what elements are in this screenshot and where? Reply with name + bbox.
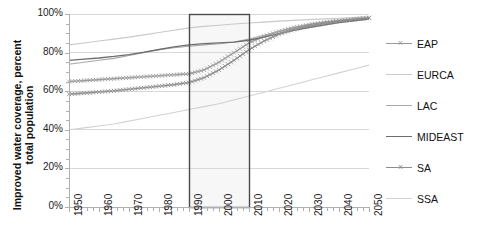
legend-item-label: SSA [417, 193, 438, 205]
legend-item-label: MIDEAST [417, 131, 464, 143]
x-axis-tick-label: 2010 [253, 194, 264, 216]
legend-item-eurca[interactable]: EURCA [386, 59, 478, 90]
legend-x-marker-icon: × [396, 39, 405, 48]
x-axis-tick-label: 2050 [373, 194, 384, 216]
x-axis-tick-label: 1970 [133, 194, 144, 216]
chart-legend: ×EAPEURCALACMIDEAST×SASSA [386, 28, 478, 214]
x-axis-tick-label: 1980 [163, 194, 174, 216]
legend-eurca-line-icon [386, 69, 412, 81]
legend-lac-line-icon [386, 100, 412, 112]
x-axis-tick-label: 2020 [283, 194, 294, 216]
legend-ssa-line-icon [386, 193, 412, 205]
x-axis-tick-label: 2040 [343, 194, 354, 216]
y-axis-tick-label: 0% [23, 200, 63, 211]
legend-item-ssa[interactable]: SSA [386, 183, 478, 214]
y-axis-tick-label: 80% [23, 46, 63, 57]
chart-container: Improved water coverage, percent total p… [0, 0, 478, 251]
y-axis-tick-label: 20% [23, 161, 63, 172]
legend-sa-line-icon: × [386, 162, 412, 174]
y-axis-tick-label: 100% [23, 7, 63, 18]
legend-x-marker-icon: × [396, 163, 405, 172]
x-axis-tick-label: 2000 [223, 194, 234, 216]
x-axis-tick-label: 2030 [313, 194, 324, 216]
legend-eap-line-icon: × [386, 38, 412, 50]
x-axis-tick-label: 1950 [73, 194, 84, 216]
legend-item-label: SA [417, 162, 431, 174]
legend-item-label: EAP [417, 38, 438, 50]
legend-item-sa[interactable]: ×SA [386, 152, 478, 183]
y-axis-tick-label: 40% [23, 123, 63, 134]
y-axis-tick-label: 60% [23, 84, 63, 95]
legend-item-label: EURCA [417, 69, 454, 81]
x-axis-tick-label: 1990 [193, 194, 204, 216]
legend-item-mideast[interactable]: MIDEAST [386, 121, 478, 152]
legend-mideast-line-icon [386, 131, 412, 143]
legend-item-eap[interactable]: ×EAP [386, 28, 478, 59]
x-axis-tick-label: 1960 [103, 194, 114, 216]
legend-item-label: LAC [417, 100, 437, 112]
legend-item-lac[interactable]: LAC [386, 90, 478, 121]
